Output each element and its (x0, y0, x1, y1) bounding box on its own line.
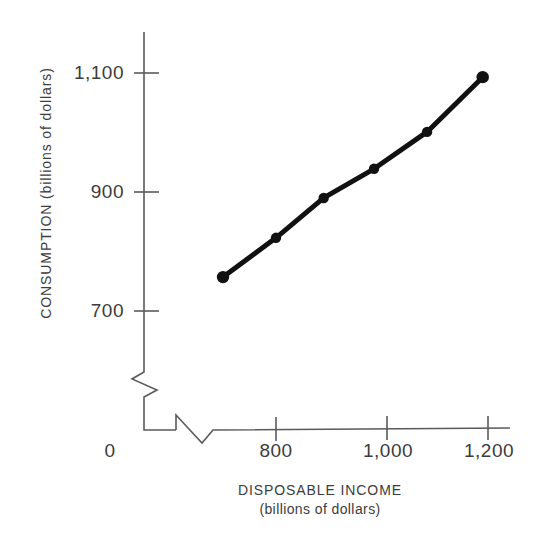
x-axis-title-line1: DISPOSABLE INCOME (170, 481, 470, 500)
data-series-line (223, 77, 483, 277)
x-tick-label-800: 800 (246, 440, 306, 462)
x-tick-label-1000: 1,000 (348, 440, 428, 462)
data-point (319, 193, 329, 203)
x-tick-label-1200: 1,200 (449, 440, 529, 462)
chart-figure: 1,100 900 700 0 800 1,000 1,200 CONSUMPT… (0, 0, 551, 559)
y-axis-break-zigzag (132, 362, 157, 418)
data-point (422, 127, 432, 137)
data-point (369, 164, 379, 174)
x-axis-title-line2: (billions of dollars) (170, 500, 470, 519)
data-point (477, 71, 489, 83)
x-axis-corner-stub (144, 418, 176, 430)
y-axis-title: CONSUMPTION (billions of dollars) (38, 63, 54, 323)
data-point (217, 271, 229, 283)
x-axis-break-zigzag (176, 415, 510, 443)
x-axis-title: DISPOSABLE INCOME (billions of dollars) (170, 481, 470, 519)
data-point (271, 233, 281, 243)
x-tick-label-0: 0 (80, 440, 140, 462)
